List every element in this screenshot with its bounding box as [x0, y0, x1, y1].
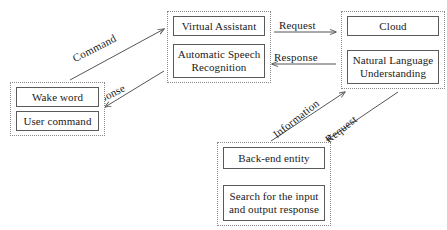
edge-label-information: Information: [271, 97, 322, 140]
node-natural-language-understanding[interactable]: Natural Language Understanding: [347, 50, 439, 84]
diagram-canvas: Command Response Request Response Inform…: [0, 0, 447, 230]
node-automatic-speech-recognition[interactable]: Automatic Speech Recognition: [173, 44, 265, 78]
node-cloud[interactable]: Cloud: [347, 16, 439, 36]
node-wake-word[interactable]: Wake word: [16, 87, 99, 107]
user-group: Wake word User command: [10, 82, 105, 136]
virtual-assistant-group: Virtual Assistant Automatic Speech Recog…: [167, 11, 271, 83]
node-search-input-output-response[interactable]: Search for the input and output response: [223, 185, 325, 221]
cloud-group: Cloud Natural Language Understanding: [341, 11, 445, 89]
node-user-command[interactable]: User command: [16, 111, 99, 131]
node-virtual-assistant[interactable]: Virtual Assistant: [173, 16, 265, 36]
edge-label-request-cloud: Request: [279, 19, 316, 31]
backend-group: Back-end entity Search for the input and…: [217, 142, 331, 226]
edge-label-command: Command: [71, 32, 119, 64]
edge-label-request-backend: Request: [323, 113, 359, 145]
node-back-end-entity[interactable]: Back-end entity: [223, 147, 325, 169]
edge-label-response-cloud: Response: [274, 51, 318, 63]
